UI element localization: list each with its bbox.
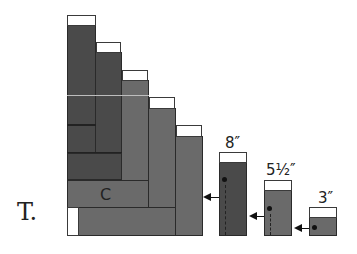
bar-2-cap <box>96 42 121 53</box>
bar-5-cap <box>176 125 202 137</box>
container-8-cap <box>219 152 247 163</box>
bar-5 <box>175 136 203 236</box>
figure-label: T. <box>17 200 37 224</box>
container-8-label: 8″ <box>225 136 240 151</box>
block-c-label: C <box>100 187 111 202</box>
bottom-white-square <box>67 207 79 236</box>
marker-dot <box>312 225 317 230</box>
container-5-half-cap <box>264 180 292 191</box>
bar-4-cap <box>149 97 175 109</box>
arrowhead-icon <box>249 212 257 220</box>
bar-3-cap <box>122 70 148 81</box>
block-c: C <box>67 180 149 208</box>
reference-line <box>67 95 149 96</box>
divider <box>67 124 96 126</box>
container-3-cap <box>309 207 337 218</box>
dashed-line <box>270 214 271 235</box>
arrowhead-icon <box>294 224 302 232</box>
container-3-label: 3″ <box>318 191 333 206</box>
block-row <box>67 153 122 180</box>
arrowhead-icon <box>203 193 211 201</box>
container-8-body <box>219 162 247 236</box>
bottom-row <box>67 207 176 236</box>
bar-1-cap <box>67 15 96 26</box>
container-5-half-label: 5½″ <box>266 163 296 178</box>
bar-4 <box>148 108 176 208</box>
container-5-half-body <box>264 190 292 236</box>
marker-dot <box>267 206 272 211</box>
marker-dot <box>222 177 227 182</box>
dashed-line <box>225 185 226 235</box>
